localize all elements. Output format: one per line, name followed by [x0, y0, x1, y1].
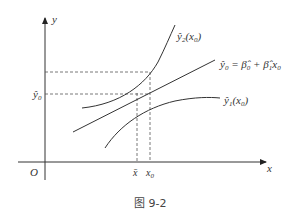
x0-label: x0 [145, 167, 154, 180]
upper-curve-label: ŷ2(x0) [176, 30, 201, 44]
origin-label: O [30, 166, 38, 178]
y0-hat-label: ŷ0 [32, 88, 42, 102]
prediction-interval-diagram: y x O x̄ x0 ŷ0 ŷ2(x0) ŷ0 = β̂0 + β̂1x0 ŷ… [0, 0, 295, 219]
lower-curve-label: ŷ1(x0) [223, 94, 248, 108]
figure-caption: 图 9-2 [134, 197, 166, 210]
x-axis-label: x [266, 162, 272, 174]
regression-equation-label: ŷ0 = β̂0 + β̂1x0 [219, 58, 281, 72]
upper-band-curve [82, 25, 175, 108]
lower-band-curve [105, 97, 220, 148]
y-axis-label: y [51, 13, 57, 25]
xbar-label: x̄ [132, 167, 138, 178]
regression-line [73, 60, 215, 132]
